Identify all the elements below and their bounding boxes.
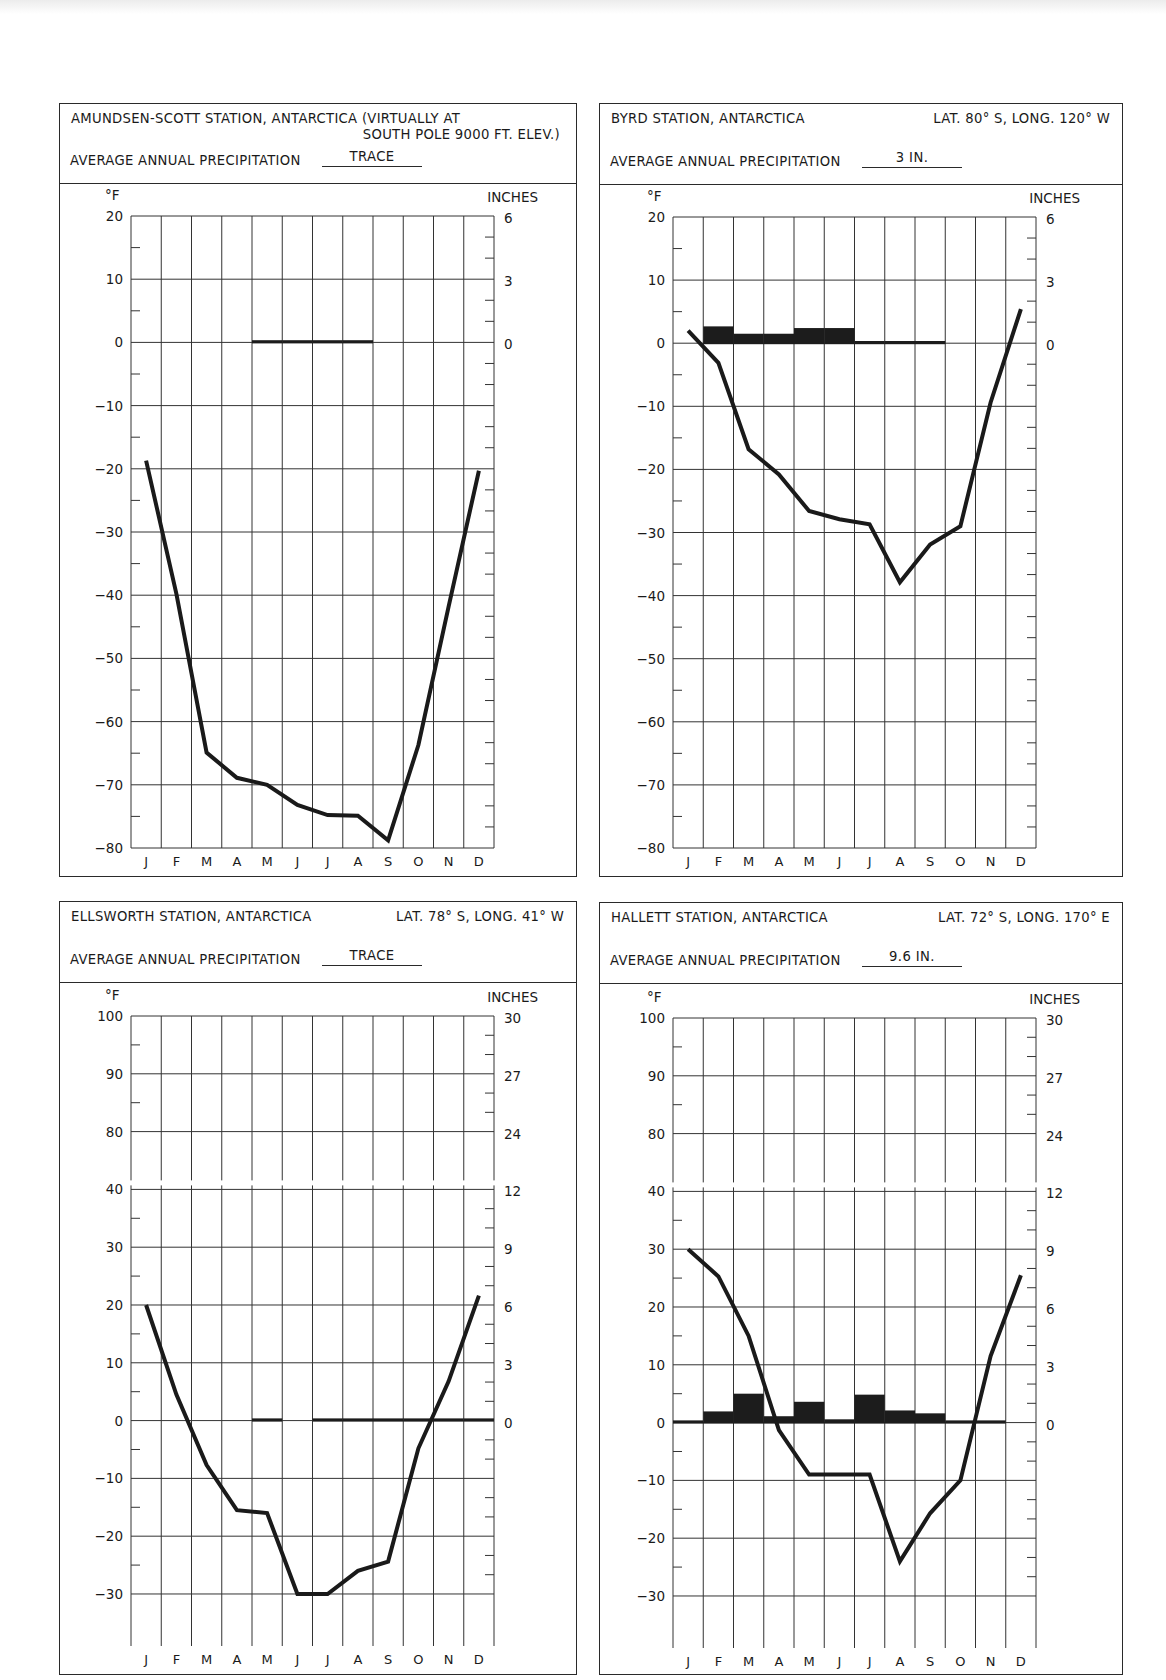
y-tick-label: −60: [95, 714, 124, 730]
y-tick-label: −20: [95, 461, 124, 477]
precipitation-bar: [313, 1418, 343, 1421]
y-tick-label: 10: [106, 1355, 123, 1371]
month-label: J: [294, 1652, 299, 1667]
month-label: F: [173, 854, 180, 869]
y-tick-label: −30: [637, 1588, 666, 1604]
y-tick-label: −10: [95, 1470, 124, 1486]
month-label: M: [804, 1654, 815, 1669]
precipitation-bar: [373, 1418, 403, 1421]
month-label: J: [143, 1652, 148, 1667]
y-tick-label: −40: [95, 587, 124, 603]
y-tick-label: −80: [95, 840, 124, 856]
month-label: D: [1016, 854, 1026, 869]
right-axis-label: 6: [1046, 211, 1055, 227]
month-label: A: [774, 854, 783, 869]
right-axis-label: 9: [1046, 1243, 1055, 1259]
y-tick-label: 0: [114, 1413, 123, 1429]
month-label: J: [867, 1654, 872, 1669]
month-label: N: [444, 1652, 454, 1667]
y-tick-label: 100: [97, 1008, 123, 1024]
month-label: O: [413, 1652, 423, 1667]
precipitation-bar: [734, 334, 764, 344]
y-tick-label: −30: [637, 525, 666, 541]
y-tick-label: 0: [656, 335, 665, 351]
month-label: M: [743, 1654, 754, 1669]
right-axis-label: 9: [504, 1241, 513, 1257]
y-tick-label: −50: [637, 651, 666, 667]
y-tick-label: 10: [648, 272, 665, 288]
month-label: O: [955, 1654, 965, 1669]
y-tick-label: 80: [106, 1124, 123, 1140]
precipitation-bar: [885, 341, 915, 344]
right-axis-label: 3: [504, 273, 513, 289]
precipitation-bar: [252, 340, 282, 343]
y-tick-label: 100: [639, 1010, 665, 1026]
month-label: J: [836, 1654, 841, 1669]
y-tick-label: 10: [106, 271, 123, 287]
month-label: F: [715, 1654, 722, 1669]
y-tick-label: −70: [95, 777, 124, 793]
month-label: M: [262, 1652, 273, 1667]
month-label: J: [867, 854, 872, 869]
y-tick-label: −20: [637, 461, 666, 477]
right-axis-label: 3: [1046, 1359, 1055, 1375]
month-label: M: [743, 854, 754, 869]
month-label: F: [173, 1652, 180, 1667]
fahrenheit-unit-label: °F: [105, 187, 120, 203]
precipitation-bar: [915, 1413, 945, 1423]
y-tick-label: −40: [637, 588, 666, 604]
month-label: A: [895, 1654, 904, 1669]
month-label: J: [294, 854, 299, 869]
y-tick-label: −50: [95, 650, 124, 666]
y-tick-label: −70: [637, 777, 666, 793]
month-label: J: [685, 854, 690, 869]
y-tick-label: 80: [648, 1126, 665, 1142]
month-label: A: [353, 854, 362, 869]
y-tick-label: 40: [106, 1181, 123, 1197]
precipitation-bar: [464, 1418, 494, 1421]
y-tick-label: −60: [637, 714, 666, 730]
month-label: S: [926, 854, 934, 869]
precipitation-bar: [673, 1420, 703, 1423]
y-tick-label: 30: [648, 1241, 665, 1257]
y-tick-label: 20: [106, 1297, 123, 1313]
precipitation-bar: [855, 341, 885, 344]
precipitation-bar: [764, 1416, 794, 1423]
month-label: N: [986, 1654, 996, 1669]
month-label: N: [986, 854, 996, 869]
right-axis-label: 0: [504, 336, 513, 352]
y-tick-label: −10: [637, 1472, 666, 1488]
y-tick-label: 10: [648, 1357, 665, 1373]
right-axis-label: 27: [504, 1068, 521, 1084]
precipitation-bar: [945, 1420, 975, 1423]
precipitation-bar: [855, 1395, 885, 1424]
month-label: J: [685, 1654, 690, 1669]
month-label: J: [143, 854, 148, 869]
precipitation-bar: [343, 340, 373, 343]
right-axis-label: 6: [504, 210, 513, 226]
precipitation-bar: [885, 1410, 915, 1423]
right-axis-label: 0: [1046, 337, 1055, 353]
y-tick-label: −10: [95, 398, 124, 414]
month-label: A: [232, 1652, 241, 1667]
month-label: D: [474, 854, 484, 869]
y-tick-label: 90: [648, 1068, 665, 1084]
y-tick-label: 0: [656, 1415, 665, 1431]
month-label: S: [384, 854, 392, 869]
right-axis-label: 6: [504, 1299, 513, 1315]
y-tick-label: −30: [95, 524, 124, 540]
right-axis-label: 12: [504, 1183, 521, 1199]
month-label: A: [895, 854, 904, 869]
month-label: O: [955, 854, 965, 869]
precipitation-bar: [703, 326, 733, 344]
y-tick-label: −10: [637, 398, 666, 414]
precipitation-bar: [313, 340, 343, 343]
right-axis-label: 24: [504, 1126, 521, 1142]
fahrenheit-unit-label: °F: [647, 188, 662, 204]
y-tick-label: 20: [648, 209, 665, 225]
y-tick-label: −30: [95, 1586, 124, 1602]
month-label: M: [201, 1652, 212, 1667]
precipitation-bar: [343, 1418, 373, 1421]
month-label: F: [715, 854, 722, 869]
inches-unit-label: INCHES: [1029, 190, 1080, 206]
